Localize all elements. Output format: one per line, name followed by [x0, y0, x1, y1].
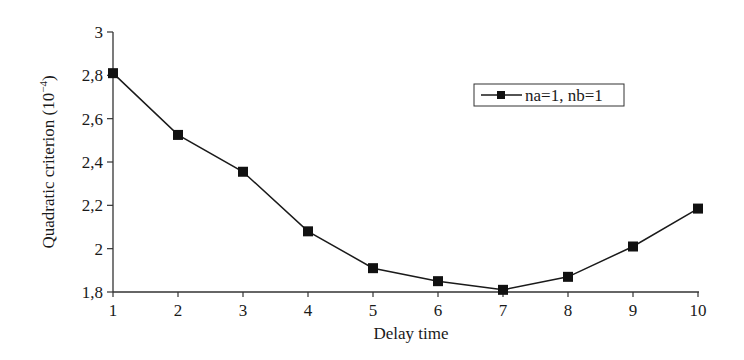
y-tick-label: 2,6	[82, 110, 103, 129]
x-axis: 12345678910	[109, 292, 707, 320]
legend-square-marker-icon	[497, 91, 505, 99]
x-tick-label: 3	[239, 301, 248, 320]
square-marker-icon	[433, 276, 443, 286]
x-tick-label: 6	[434, 301, 443, 320]
y-axis-label-suffix: )	[39, 75, 58, 81]
legend: na=1, nb=1	[474, 84, 624, 106]
y-axis: 32,82,62,42,221,8	[82, 23, 113, 302]
x-tick-label: 2	[174, 301, 183, 320]
legend-label: na=1, nb=1	[525, 86, 603, 105]
y-axis-title: Quadratic criterion (10−4)	[37, 75, 58, 248]
x-axis-label: Delay time	[373, 324, 448, 343]
y-tick-label: 1,8	[82, 283, 103, 302]
square-marker-icon	[303, 226, 313, 236]
x-tick-label: 4	[304, 301, 313, 320]
square-marker-icon	[238, 167, 248, 177]
square-marker-icon	[693, 204, 703, 214]
square-marker-icon	[173, 130, 183, 140]
x-tick-label: 5	[369, 301, 378, 320]
square-marker-icon	[628, 242, 638, 252]
x-tick-label: 9	[629, 301, 638, 320]
x-tick-label: 8	[564, 301, 573, 320]
svg-text:Quadratic criterion (10−4): Quadratic criterion (10−4)	[37, 75, 58, 248]
x-tick-label: 10	[690, 301, 707, 320]
line-chart: 32,82,62,42,221,8 12345678910 Quadratic …	[0, 0, 744, 360]
y-tick-label: 3	[95, 23, 104, 42]
y-tick-label: 2	[95, 240, 104, 259]
x-tick-label: 1	[109, 301, 118, 320]
square-marker-icon	[368, 263, 378, 273]
square-marker-icon	[498, 285, 508, 295]
y-tick-label: 2,8	[82, 66, 103, 85]
y-tick-label: 2,4	[82, 153, 104, 172]
x-tick-label: 7	[499, 301, 508, 320]
square-marker-icon	[563, 272, 573, 282]
y-axis-label: Quadratic criterion (10	[39, 93, 58, 249]
y-axis-exponent: −4	[37, 81, 49, 93]
y-tick-label: 2,2	[82, 196, 103, 215]
square-marker-icon	[108, 68, 118, 78]
